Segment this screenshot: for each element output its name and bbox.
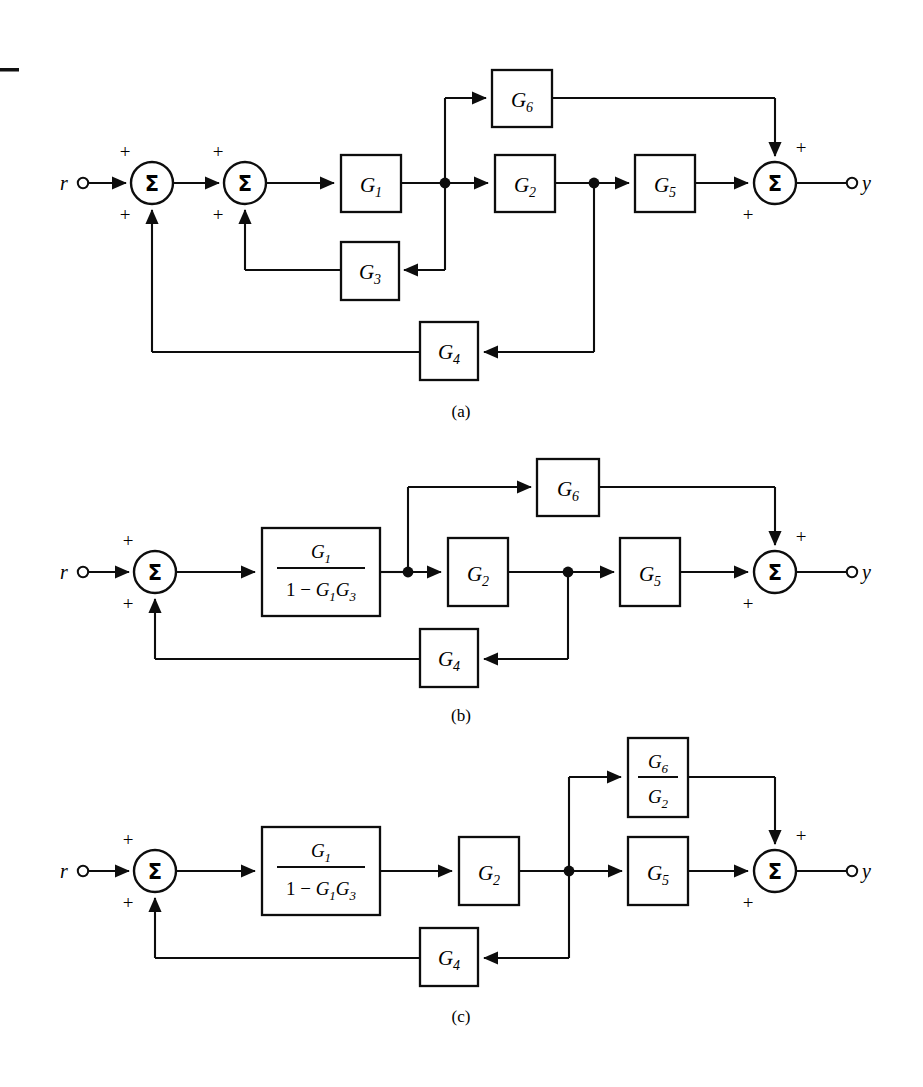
block-diagram-figure: r Σ + + Σ + + G1 <box>0 0 923 1087</box>
input-label-c: r <box>60 860 68 882</box>
input-terminal-b <box>78 567 88 577</box>
summer-1-glyph-a: Σ <box>145 172 159 196</box>
input-label-b: r <box>60 561 68 583</box>
page-rule-mark <box>0 68 19 72</box>
summer-1-glyph-c: Σ <box>148 860 162 884</box>
summer-2-plus-bottom-a: + <box>213 204 224 225</box>
summer-output-plus-top-b: + <box>796 526 807 547</box>
summer-1-plus-bottom-b: + <box>123 593 134 614</box>
summer-output-plus-top-a: + <box>796 137 807 158</box>
input-label-a: r <box>60 172 68 194</box>
summer-output-glyph-b: Σ <box>768 561 782 585</box>
summer-1-plus-top-b: + <box>123 530 134 551</box>
diagram-b: r Σ + + G1 1 − G1G3 <box>60 459 871 725</box>
input-terminal-a <box>78 178 88 188</box>
summer-output-plus-left-b: + <box>743 593 754 614</box>
summer-1-plus-top-a: + <box>120 141 131 162</box>
output-label-c: y <box>860 860 871 883</box>
summer-output-plus-left-c: + <box>743 892 754 913</box>
diagram-c: r Σ + + G1 1 − G1G3 G2 <box>60 738 871 1026</box>
summer-2-glyph-a: Σ <box>238 172 252 196</box>
output-terminal-b <box>847 567 857 577</box>
output-label-b: y <box>860 561 871 584</box>
output-label-a: y <box>860 172 871 195</box>
caption-c: (c) <box>452 1007 471 1026</box>
summer-1-glyph-b: Σ <box>148 561 162 585</box>
caption-a: (a) <box>452 402 471 421</box>
input-terminal-c <box>78 866 88 876</box>
summer-1-plus-bottom-c: + <box>123 892 134 913</box>
summer-1-plus-bottom-a: + <box>120 204 131 225</box>
output-terminal-a <box>847 178 857 188</box>
summer-2-plus-top-a: + <box>213 141 224 162</box>
caption-b: (b) <box>451 706 471 725</box>
summer-output-glyph-c: Σ <box>768 860 782 884</box>
summer-output-plus-left-a: + <box>743 204 754 225</box>
summer-output-glyph-a: Σ <box>768 172 782 196</box>
summer-output-plus-top-c: + <box>796 825 807 846</box>
diagram-a: r Σ + + Σ + + G1 <box>60 70 871 421</box>
output-terminal-c <box>847 866 857 876</box>
figure-root: r Σ + + Σ + + G1 <box>0 0 923 1087</box>
summer-1-plus-top-c: + <box>123 829 134 850</box>
